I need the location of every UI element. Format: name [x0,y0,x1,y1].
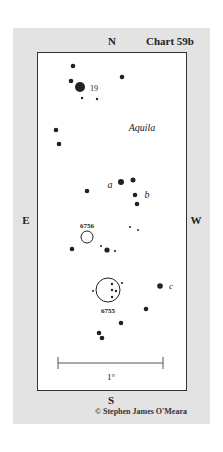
scale-label: 1° [107,372,115,382]
star-label-b: b [145,189,150,200]
star-label-a: a [108,179,113,190]
star-map [0,0,223,452]
ngc6756-label: 6756 [80,222,94,230]
ngc6755-label: 6755 [101,307,115,315]
star-label-19: 19 [90,84,98,93]
star-label-c: c [169,281,173,291]
scale-bar [58,357,163,369]
constellation-label: Aquila [129,122,156,133]
stars [54,64,163,341]
ngc6756-cluster [81,231,93,243]
